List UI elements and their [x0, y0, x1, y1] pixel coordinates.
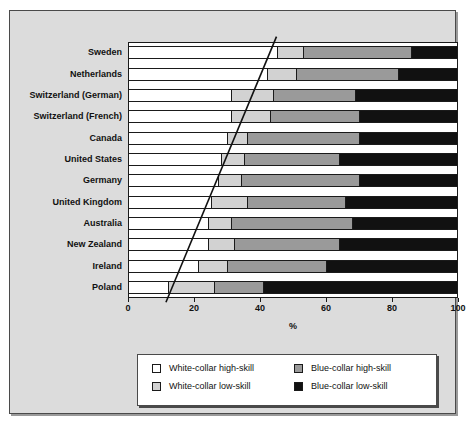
y-axis-category-label: Netherlands	[0, 68, 122, 81]
x-axis-tick-label: 40	[255, 303, 265, 313]
chart-panel: SwedenNetherlandsSwitzerland (German)Swi…	[9, 10, 456, 414]
legend-item: Blue-collar low-skill	[294, 381, 436, 391]
bar-segment	[231, 218, 352, 229]
chart-figure: SwedenNetherlandsSwitzerland (German)Swi…	[0, 0, 468, 427]
bar-segment	[129, 69, 267, 80]
bar-row: Netherlands	[128, 68, 458, 81]
y-axis-category-label: New Zealand	[0, 238, 122, 251]
bar-segment	[303, 47, 411, 58]
bar-segment	[247, 197, 345, 208]
bar-row: Poland	[128, 281, 458, 294]
bar-segment	[296, 69, 398, 80]
bar-segment	[359, 111, 457, 122]
bar-segment	[221, 154, 244, 165]
stacked-bar	[128, 174, 458, 187]
bar-segment	[270, 111, 359, 122]
bar-segment	[208, 239, 234, 250]
bar-segment	[359, 133, 457, 144]
bar-segment	[234, 239, 339, 250]
bar-segment	[129, 111, 231, 122]
stacked-bar	[128, 110, 458, 123]
y-axis-category-label: Australia	[0, 217, 122, 230]
bar-row: Sweden	[128, 46, 458, 59]
bar-segment	[345, 197, 457, 208]
bar-segment	[227, 261, 325, 272]
bar-row: Australia	[128, 217, 458, 230]
chart-legend: White-collar high-skillBlue-collar high-…	[137, 354, 437, 406]
bar-segment	[244, 154, 339, 165]
bar-segment	[241, 175, 359, 186]
legend-swatch-icon	[294, 382, 303, 391]
x-axis-tick	[458, 298, 459, 302]
stacked-bar	[128, 89, 458, 102]
bar-row: United States	[128, 153, 458, 166]
x-axis-title: %	[128, 321, 458, 331]
bar-segment	[277, 47, 303, 58]
bar-segment	[211, 197, 247, 208]
plot-area: SwedenNetherlandsSwitzerland (German)Swi…	[128, 42, 458, 298]
x-axis-tick-label: 80	[387, 303, 397, 313]
x-axis-tick-label: 0	[125, 303, 130, 313]
bar-segment	[273, 90, 355, 101]
legend-item: Blue-collar high-skill	[294, 363, 436, 373]
y-axis-category-label: United Kingdom	[0, 196, 122, 209]
x-axis-tick	[194, 298, 195, 302]
bar-segment	[227, 133, 247, 144]
bar-segment	[359, 175, 457, 186]
bar-segment	[267, 69, 297, 80]
y-axis-category-label: Canada	[0, 132, 122, 145]
bar-segment	[208, 218, 231, 229]
legend-items: White-collar high-skillBlue-collar high-…	[138, 363, 436, 391]
stacked-bar	[128, 260, 458, 273]
bar-row: Switzerland (German)	[128, 89, 458, 102]
y-axis-category-label: Sweden	[0, 46, 122, 59]
bar-segment	[129, 197, 211, 208]
stacked-bar	[128, 196, 458, 209]
bar-row: Switzerland (French)	[128, 110, 458, 123]
stacked-bar	[128, 68, 458, 81]
bar-row: New Zealand	[128, 238, 458, 251]
bar-segment	[168, 282, 214, 293]
bar-segment	[129, 282, 168, 293]
bar-segment	[411, 47, 457, 58]
legend-item: White-collar high-skill	[152, 363, 294, 373]
bar-segment	[231, 90, 274, 101]
bar-segment	[339, 154, 457, 165]
bar-segment	[247, 133, 359, 144]
bar-segment	[263, 282, 457, 293]
legend-item-label: Blue-collar high-skill	[311, 363, 391, 373]
bar-segment	[198, 261, 228, 272]
y-axis-category-label: United States	[0, 153, 122, 166]
bar-segment	[398, 69, 457, 80]
bar-segment	[231, 111, 270, 122]
x-axis-tick	[260, 298, 261, 302]
y-axis-category-label: Germany	[0, 174, 122, 187]
bar-row: Germany	[128, 174, 458, 187]
legend-item-label: Blue-collar low-skill	[311, 381, 388, 391]
x-axis-tick-label: 100	[450, 303, 465, 313]
bar-segment	[214, 282, 263, 293]
bar-segment	[218, 175, 241, 186]
bar-row: United Kingdom	[128, 196, 458, 209]
bar-segment	[129, 47, 277, 58]
bar-segment	[129, 218, 208, 229]
bar-row: Ireland	[128, 260, 458, 273]
y-axis-category-label: Switzerland (German)	[0, 89, 122, 102]
y-axis-category-label: Switzerland (French)	[0, 110, 122, 123]
legend-swatch-icon	[152, 382, 161, 391]
legend-swatch-icon	[294, 364, 303, 373]
stacked-bar	[128, 153, 458, 166]
x-axis-tick	[326, 298, 327, 302]
legend-item-label: White-collar high-skill	[169, 363, 254, 373]
bar-segment	[129, 175, 218, 186]
x-axis-tick-label: 20	[189, 303, 199, 313]
stacked-bar	[128, 238, 458, 251]
legend-swatch-icon	[152, 364, 161, 373]
bar-segment	[352, 218, 457, 229]
bar-segment	[129, 239, 208, 250]
bar-segment	[129, 133, 227, 144]
bar-segment	[326, 261, 457, 272]
x-axis-tick	[128, 298, 129, 302]
stacked-bar	[128, 46, 458, 59]
x-axis-tick-label: 60	[321, 303, 331, 313]
